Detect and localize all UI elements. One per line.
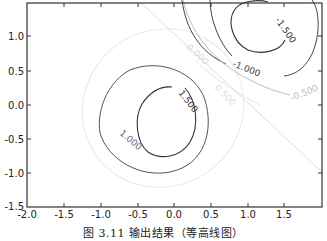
contour-neg1.5	[231, 1, 285, 53]
figure-caption: 图 3.11 输出结果（等高线图）	[0, 224, 327, 240]
x-tick-label: -1.0	[91, 209, 111, 220]
y-tick-label: -0.5	[4, 134, 24, 145]
y-axis	[27, 36, 322, 173]
x-tick-label: 1.0	[240, 209, 256, 220]
contour-label-neg0.5: -0.500	[289, 83, 320, 103]
contour-label-0.5: 0.500	[213, 82, 238, 107]
contour-0.5	[51, 0, 275, 219]
x-tick-label: 0.0	[166, 209, 182, 220]
x-tick-labels: -2.0 -1.5 -1.0 -0.5 0.0 0.5 1.0 1.5	[17, 209, 292, 220]
contour-1.0	[99, 66, 208, 173]
y-tick-label: -1.0	[4, 168, 24, 179]
x-tick-label: -1.5	[54, 209, 74, 220]
contour-lines	[51, 0, 322, 219]
contour-neg0.5	[183, 0, 290, 95]
contour-neg1.0	[210, 0, 318, 76]
y-tick-label: -1.5	[4, 201, 24, 212]
x-tick-label: -0.5	[128, 209, 148, 220]
contour-label-1.5: 1.500	[176, 88, 200, 115]
contour-label-neg1.0: -1.000	[231, 59, 262, 79]
y-tick-label: 0.5	[8, 66, 24, 77]
y-tick-labels: -1.5 -1.0 -0.5 0.0 0.5 1.0	[4, 31, 24, 212]
contour-label-1.0: 1.000	[118, 128, 144, 152]
x-tick-label: 1.5	[276, 209, 292, 220]
x-tick-label: 0.5	[203, 209, 219, 220]
contour-label-neg1.5: -1.500	[273, 15, 298, 45]
y-tick-label: 0.0	[8, 100, 24, 111]
contour-chart: -1.500 -1.000 -0.500 0.000 0.500 1.000 1…	[0, 0, 327, 220]
y-tick-label: 1.0	[8, 31, 24, 42]
